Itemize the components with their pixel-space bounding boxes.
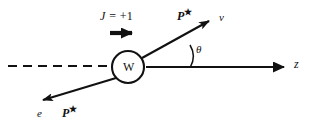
electron-momentum-label: P★ [62,105,77,119]
w-boson-label: W [123,61,134,73]
neutrino-label: ν [219,12,224,23]
electron-momentum-star-icon: ★ [69,104,77,114]
spin-label: J = +1 [100,10,133,22]
electron-momentum-arrow [43,78,116,100]
z-axis-label: z [294,58,299,70]
neutrino-momentum-star-icon: ★ [184,7,192,17]
decay-diagram-canvas [0,0,309,126]
theta-angle-label: θ [196,44,201,55]
spin-value: = +1 [106,9,134,23]
electron-label: e [37,108,42,119]
neutrino-momentum-label: P★ [177,8,192,22]
decay-diagram-figure: J = +1 W P★ ν θ z e P★ [0,0,309,126]
theta-angle-arc [190,45,193,67]
